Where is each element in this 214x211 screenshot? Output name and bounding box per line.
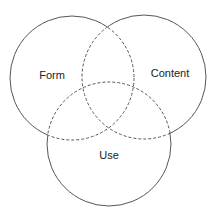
- set-content: Content: [82, 15, 206, 139]
- set-use: Use: [47, 82, 171, 206]
- venn-diagram: Form Content Use: [0, 0, 214, 211]
- content-label: Content: [151, 67, 190, 79]
- set-form: Form: [10, 16, 134, 140]
- use-label: Use: [99, 149, 119, 161]
- form-circle-inner-arc: [10, 16, 134, 140]
- use-circle-outer-arc: [47, 82, 171, 206]
- form-circle-outer-arc: [10, 16, 134, 140]
- form-label: Form: [39, 69, 65, 81]
- use-circle-inner-arc: [47, 82, 171, 206]
